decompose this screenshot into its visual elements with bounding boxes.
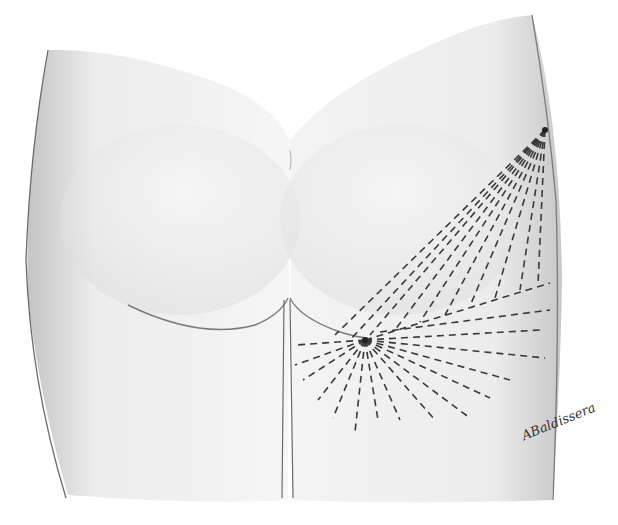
lateral-hip-point (542, 127, 548, 133)
gluteal-fold-point (362, 337, 368, 343)
anatomical-illustration (0, 0, 618, 525)
